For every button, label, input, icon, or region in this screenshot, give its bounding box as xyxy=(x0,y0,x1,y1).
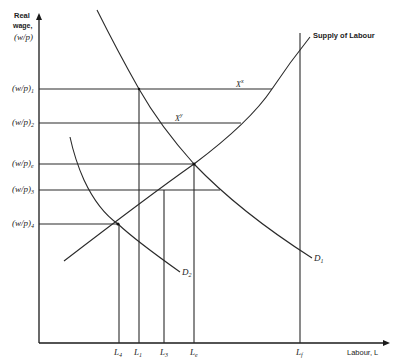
d1-label: D1 xyxy=(314,254,324,264)
y-axis-label-line1: Real xyxy=(14,12,30,20)
wage-label-2: (w/p)2 xyxy=(12,118,34,128)
wage-label-4: (w/p)4 xyxy=(12,219,34,229)
x-axis-arrow-icon xyxy=(383,340,390,346)
gap-label-x: Xx xyxy=(236,78,244,89)
labour-label-1: L1 xyxy=(134,348,142,358)
y-axis-arrow-icon xyxy=(36,13,42,20)
d1-wage1-point xyxy=(138,88,140,90)
labour-market-diagram xyxy=(0,0,395,362)
y-axis-label-line2: wage, xyxy=(13,22,32,29)
wage-label-e: (w/p)e xyxy=(12,159,34,169)
x-axis-label: Labour, L xyxy=(347,349,378,357)
supply-of-labour-curve xyxy=(64,37,310,261)
d2-equilibrium-point xyxy=(116,222,119,225)
labour-label-4: L4 xyxy=(114,348,122,358)
labour-label-3: L3 xyxy=(160,348,168,358)
labour-label-e: Le xyxy=(190,348,198,358)
supply-curve-label: Supply of Labour xyxy=(313,32,375,40)
demand-curve-d1 xyxy=(97,10,312,258)
d2-label: D2 xyxy=(182,268,192,278)
gap-label-y: Xy xyxy=(175,112,183,123)
labour-label-f: Lf xyxy=(296,348,303,358)
wage-label-3: (w/p)3 xyxy=(12,185,34,195)
equilibrium-point xyxy=(192,162,195,165)
wage-label-1: (w/p)1 xyxy=(12,84,34,94)
y-axis-label-line3: (w/p) xyxy=(14,33,33,42)
